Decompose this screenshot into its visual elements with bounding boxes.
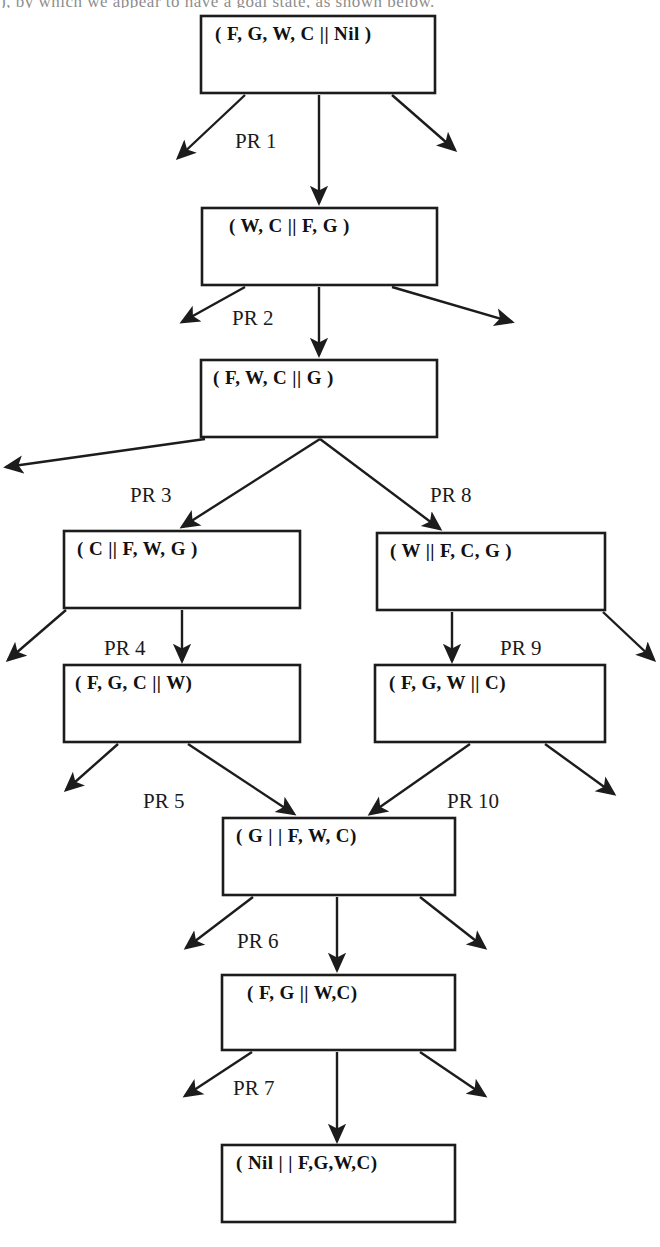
edge-label-pr5: PR 5 [143, 789, 184, 813]
edge-label-pr10: PR 10 [447, 789, 499, 813]
node-n1-label: ( F, G, W, C || Nil ) [215, 23, 371, 45]
node-n2-label: ( W, C || F, G ) [229, 215, 350, 237]
node-n6[interactable]: ( F, G, C || W) [64, 665, 300, 742]
edge-label-pr3: PR 3 [130, 483, 171, 507]
node-layer: ( F, G, W, C || Nil ) ( W, C || F, G ) (… [64, 16, 605, 1222]
edge-label-pr2: PR 2 [232, 306, 273, 330]
node-n4[interactable]: ( C || F, W, G ) [64, 531, 300, 608]
node-n6-label: ( F, G, C || W) [75, 672, 192, 694]
node-n7[interactable]: ( F, G, W || C) [375, 665, 605, 742]
edge-n6-to-n8 [188, 744, 294, 814]
node-n10[interactable]: ( Nil | | F,G,W,C) [222, 1145, 455, 1222]
edge-label-pr4: PR 4 [104, 636, 146, 660]
edge-n3-to-n4 [182, 439, 320, 527]
node-n1[interactable]: ( F, G, W, C || Nil ) [201, 16, 435, 93]
edge-n6-stub-left [66, 744, 118, 790]
edge-n1-stub-right [392, 95, 455, 150]
node-n8-label: ( G | | F, W, C) [236, 825, 357, 847]
edge-label-pr1: PR 1 [235, 129, 276, 153]
node-n8[interactable]: ( G | | F, W, C) [223, 818, 455, 895]
edge-label-pr9: PR 9 [500, 636, 541, 660]
node-n3[interactable]: ( F, W, C || G ) [201, 360, 437, 437]
node-n3-label: ( F, W, C || G ) [213, 367, 334, 389]
edge-label-pr8: PR 8 [430, 483, 471, 507]
edge-label-pr6: PR 6 [237, 929, 278, 953]
edge-n7-stub-right [545, 744, 614, 794]
edge-n5-stub-right [603, 612, 654, 660]
diagram-canvas: ( F, G, W, C || Nil ) ( W, C || F, G ) (… [0, 0, 660, 1247]
edge-label-pr7: PR 7 [233, 1076, 274, 1100]
node-n7-label: ( F, G, W || C) [389, 672, 506, 694]
edge-n3-to-n5 [320, 439, 440, 529]
cropped-caption-text: ), by which we appear to have a goal sta… [0, 0, 660, 8]
edge-n8-stub-right [420, 897, 485, 948]
node-n4-label: ( C || F, W, G ) [77, 538, 198, 560]
edge-n9-stub-right [420, 1052, 485, 1096]
node-n5[interactable]: ( W || F, C, G ) [377, 533, 605, 610]
edge-n4-stub-left [8, 610, 66, 660]
node-n2[interactable]: ( W, C || F, G ) [202, 208, 437, 285]
node-n5-label: ( W || F, C, G ) [390, 540, 512, 562]
edge-n2-stub-right [392, 287, 512, 322]
node-n10-label: ( Nil | | F,G,W,C) [236, 1152, 377, 1174]
state-space-diagram: ), by which we appear to have a goal sta… [0, 0, 660, 1247]
node-n9[interactable]: ( F, G || W,C) [222, 975, 455, 1050]
node-n9-label: ( F, G || W,C) [247, 982, 357, 1004]
edge-n3-stub-left [6, 439, 205, 467]
